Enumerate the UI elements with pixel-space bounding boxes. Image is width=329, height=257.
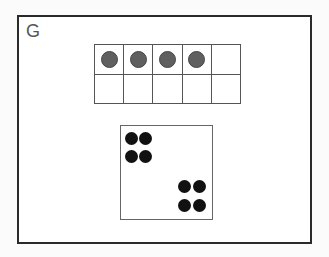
counter-icon <box>188 51 205 68</box>
card-frame: G <box>17 15 312 244</box>
dot-icon <box>125 150 138 163</box>
ten-frame-cell <box>211 45 240 75</box>
dot-icon <box>139 150 152 163</box>
ten-frame-cell <box>153 74 182 104</box>
ten-frame-cell <box>182 74 211 104</box>
dot-box <box>120 125 213 220</box>
ten-frame-cell <box>95 74 124 104</box>
card-label: G <box>26 21 40 42</box>
counter-icon <box>159 51 176 68</box>
dot-icon <box>193 180 206 193</box>
ten-frame-row <box>95 74 241 104</box>
counter-icon <box>101 51 118 68</box>
dot-icon <box>139 132 152 145</box>
ten-frame-cell <box>153 45 182 75</box>
ten-frame-cell <box>211 74 240 104</box>
ten-frame-cell <box>124 74 153 104</box>
ten-frame-cell <box>95 45 124 75</box>
counter-icon <box>130 51 147 68</box>
dot-icon <box>178 180 191 193</box>
dot-icon <box>178 199 191 212</box>
dot-icon <box>125 132 138 145</box>
ten-frame-row <box>95 45 241 75</box>
dot-icon <box>193 199 206 212</box>
ten-frame-cell <box>124 45 153 75</box>
ten-frame <box>94 44 241 104</box>
ten-frame-cell <box>182 45 211 75</box>
